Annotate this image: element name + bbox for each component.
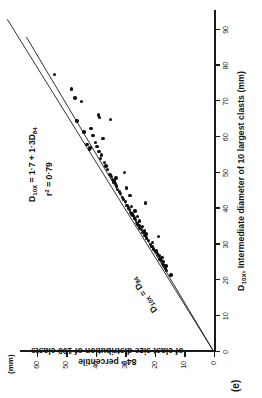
scatter-point [95, 145, 98, 148]
scatter-point [94, 141, 97, 144]
scatter-point [133, 209, 136, 212]
x-axis-title: D10X, Intermediate diameter of 10 larges… [236, 10, 247, 352]
scatter-point [144, 201, 147, 204]
scatter-point [143, 229, 146, 232]
scatter-point [91, 134, 94, 137]
scatter-point [88, 146, 91, 149]
figure-canvas: (e) (mm) 0102030405060708090010203040506… [0, 0, 262, 398]
y-axis-title: 84th percentileof clast size distributio… [2, 346, 212, 369]
scatter-point [97, 113, 100, 116]
scatter-point [160, 256, 163, 259]
scatter-point [108, 173, 111, 176]
scatter-point [89, 127, 92, 130]
scatter-point [169, 273, 172, 276]
r-squared-line: r2 = 0·79 [41, 127, 55, 196]
scatter-point [125, 186, 128, 189]
scatter-point [82, 130, 85, 133]
scatter-point [97, 150, 100, 153]
scatter-point [123, 171, 126, 174]
scatter-point [128, 194, 131, 197]
scatter-point [70, 87, 73, 90]
scatter-point [125, 204, 128, 207]
rotated-figure-wrapper: (e) (mm) 0102030405060708090010203040506… [0, 0, 262, 398]
scatter-point [114, 176, 117, 179]
scatter-point [138, 219, 141, 222]
regression-equation-annotation: D10X = 1·7 + 1·3D84 r2 = 0·79 [26, 127, 54, 202]
scatter-point [73, 96, 76, 99]
scatter-point [104, 164, 107, 167]
regression-equation-line1: D10X = 1·7 + 1·3D84 [26, 127, 41, 202]
scatter-point [75, 119, 78, 122]
scatter-point [85, 143, 88, 146]
